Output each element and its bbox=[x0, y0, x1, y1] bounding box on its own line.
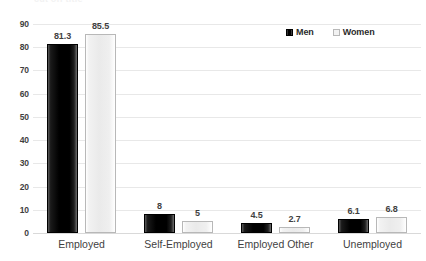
y-tick-label: 70 bbox=[0, 65, 29, 75]
bar-chart: cut off title 9080706050403020100 81.385… bbox=[0, 0, 426, 261]
legend-item-men[interactable]: Men bbox=[286, 27, 314, 37]
legend-item-women[interactable]: Women bbox=[333, 27, 375, 37]
y-tick-label: 80 bbox=[0, 42, 29, 52]
y-tick-label: 10 bbox=[0, 205, 29, 215]
y-tick-label: 30 bbox=[0, 158, 29, 168]
x-tick-label-employed-other: Employed Other bbox=[227, 238, 324, 250]
gridline-0 bbox=[33, 233, 421, 234]
y-tick-label: 60 bbox=[0, 89, 29, 99]
bar-value-label: 6.1 bbox=[338, 206, 369, 216]
legend-label: Men bbox=[296, 27, 314, 37]
square-light-icon bbox=[333, 29, 340, 36]
x-tick-label-self-employed: Self-Employed bbox=[130, 238, 227, 250]
bar-men-unemployed[interactable] bbox=[338, 219, 369, 233]
bar-value-label: 8 bbox=[144, 201, 175, 211]
bar-value-label: 4.5 bbox=[241, 210, 272, 220]
bar-value-label: 2.7 bbox=[279, 214, 310, 224]
bar-women-unemployed[interactable] bbox=[376, 217, 407, 233]
bar-value-label: 6.8 bbox=[376, 204, 407, 214]
bar-women-employed-other[interactable] bbox=[279, 227, 310, 233]
bar-value-label: 81.3 bbox=[47, 31, 78, 41]
bar-women-self-employed[interactable] bbox=[182, 221, 213, 233]
x-tick-label-employed: Employed bbox=[33, 238, 130, 250]
plot-area: 81.385.5854.52.76.16.8 bbox=[33, 24, 421, 233]
square-dark-icon bbox=[286, 29, 293, 36]
y-tick-label: 90 bbox=[0, 19, 29, 29]
y-tick-label: 50 bbox=[0, 112, 29, 122]
bar-men-self-employed[interactable] bbox=[144, 214, 175, 233]
y-tick-label: 20 bbox=[0, 182, 29, 192]
y-axis: 9080706050403020100 bbox=[0, 24, 29, 233]
y-tick-label: 40 bbox=[0, 135, 29, 145]
y-tick-label: 0 bbox=[0, 228, 29, 238]
bar-value-label: 85.5 bbox=[85, 21, 116, 31]
bar-men-employed[interactable] bbox=[47, 44, 78, 233]
legend-label: Women bbox=[343, 27, 375, 37]
bar-value-label: 5 bbox=[182, 208, 213, 218]
x-tick-label-unemployed: Unemployed bbox=[324, 238, 421, 250]
bar-men-employed-other[interactable] bbox=[241, 223, 272, 233]
chart-legend: MenWomen bbox=[286, 27, 375, 37]
chart-title-remnant: cut off title bbox=[34, 0, 174, 4]
x-axis: EmployedSelf-EmployedEmployed OtherUnemp… bbox=[33, 238, 421, 256]
bar-women-employed[interactable] bbox=[85, 34, 116, 233]
